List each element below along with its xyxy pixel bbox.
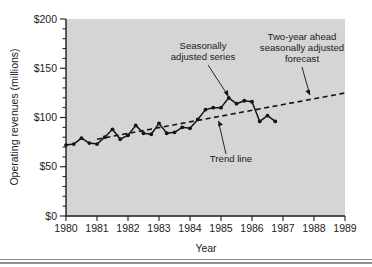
x-tick-label-1983: 1983 — [147, 222, 171, 234]
y-tick-label-150: $150 — [34, 62, 58, 74]
x-tick-label-1989: 1989 — [333, 222, 357, 234]
x-tick-label-1981: 1981 — [85, 222, 109, 234]
annotation-seasonally-adjusted-series-line1: Seasonally — [180, 40, 227, 51]
y-axis-title: Operating revenues (millions) — [8, 48, 20, 185]
x-axis-tick-labels: 1980 1981 1982 1983 1984 1985 1986 1987 … — [54, 222, 357, 234]
annotation-seasonally-adjusted-series-line2: adjusted series — [171, 51, 236, 62]
y-axis-tick-labels: $0 $50 $100 $150 $200 — [34, 13, 58, 222]
x-axis-title: Year — [195, 242, 217, 254]
y-tick-label-100: $100 — [34, 111, 58, 123]
x-tick-label-1987: 1987 — [271, 222, 295, 234]
x-tick-label-1984: 1984 — [178, 222, 202, 234]
y-tick-label-50: $50 — [39, 160, 57, 172]
annotation-forecast-line1: Two-year ahead — [268, 31, 337, 42]
x-tick-label-1985: 1985 — [209, 222, 233, 234]
x-tick-label-1980: 1980 — [54, 222, 78, 234]
figure-container: $0 $50 $100 $150 $200 1980 1981 1982 198… — [0, 0, 372, 267]
x-axis-ticks — [66, 216, 345, 221]
annotation-forecast-line3: forecast — [285, 53, 319, 64]
annotation-trend-line-label: Trend line — [210, 153, 252, 164]
x-tick-label-1982: 1982 — [116, 222, 140, 234]
operating-revenues-chart: $0 $50 $100 $150 $200 1980 1981 1982 198… — [0, 0, 372, 267]
y-tick-label-200: $200 — [34, 13, 58, 25]
y-tick-label-0: $0 — [45, 210, 57, 222]
x-tick-label-1988: 1988 — [302, 222, 326, 234]
x-tick-label-1986: 1986 — [240, 222, 264, 234]
annotation-forecast-line2: seasonally adjusted — [260, 42, 344, 53]
